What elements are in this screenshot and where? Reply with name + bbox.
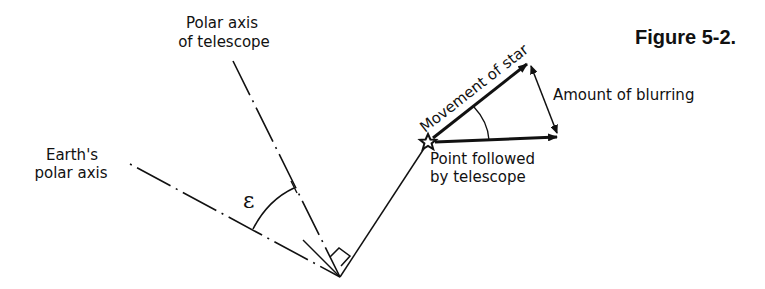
diagram-canvas: Figure 5-2. Polar axis of telescope Eart… (0, 0, 765, 289)
point-followed-arrow (435, 137, 557, 142)
diagram-figure: Figure 5-2. Polar axis of telescope Eart… (0, 0, 765, 289)
vertex-short-line (303, 240, 340, 277)
movement-of-star-label: Movement of star (416, 40, 532, 136)
line-to-star (340, 147, 425, 277)
telescope-axis-label-line1: Polar axis (186, 14, 258, 32)
point-followed-label-line2: by telescope (430, 168, 526, 186)
earth-axis-label-line1: Earth's (46, 146, 98, 164)
telescope-axis-label-line2: of telescope (178, 33, 270, 51)
earth-axis-label-line2: polar axis (34, 164, 107, 182)
point-followed-label-line1: Point followed (430, 150, 535, 168)
star-angle-arc (474, 107, 489, 140)
figure-title: Figure 5-2. (635, 26, 736, 48)
earth-polar-axis-line (130, 164, 340, 277)
amount-of-blurring-label: Amount of blurring (553, 86, 694, 104)
telescope-polar-axis-line (233, 61, 340, 277)
epsilon-angle-arc (253, 188, 294, 229)
epsilon-symbol: ε (243, 188, 254, 213)
